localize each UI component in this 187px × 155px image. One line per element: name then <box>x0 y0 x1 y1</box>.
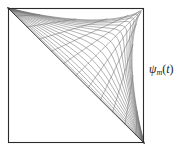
figure-container: ψm(t) <box>0 0 187 155</box>
curve-family-figure <box>0 0 187 155</box>
